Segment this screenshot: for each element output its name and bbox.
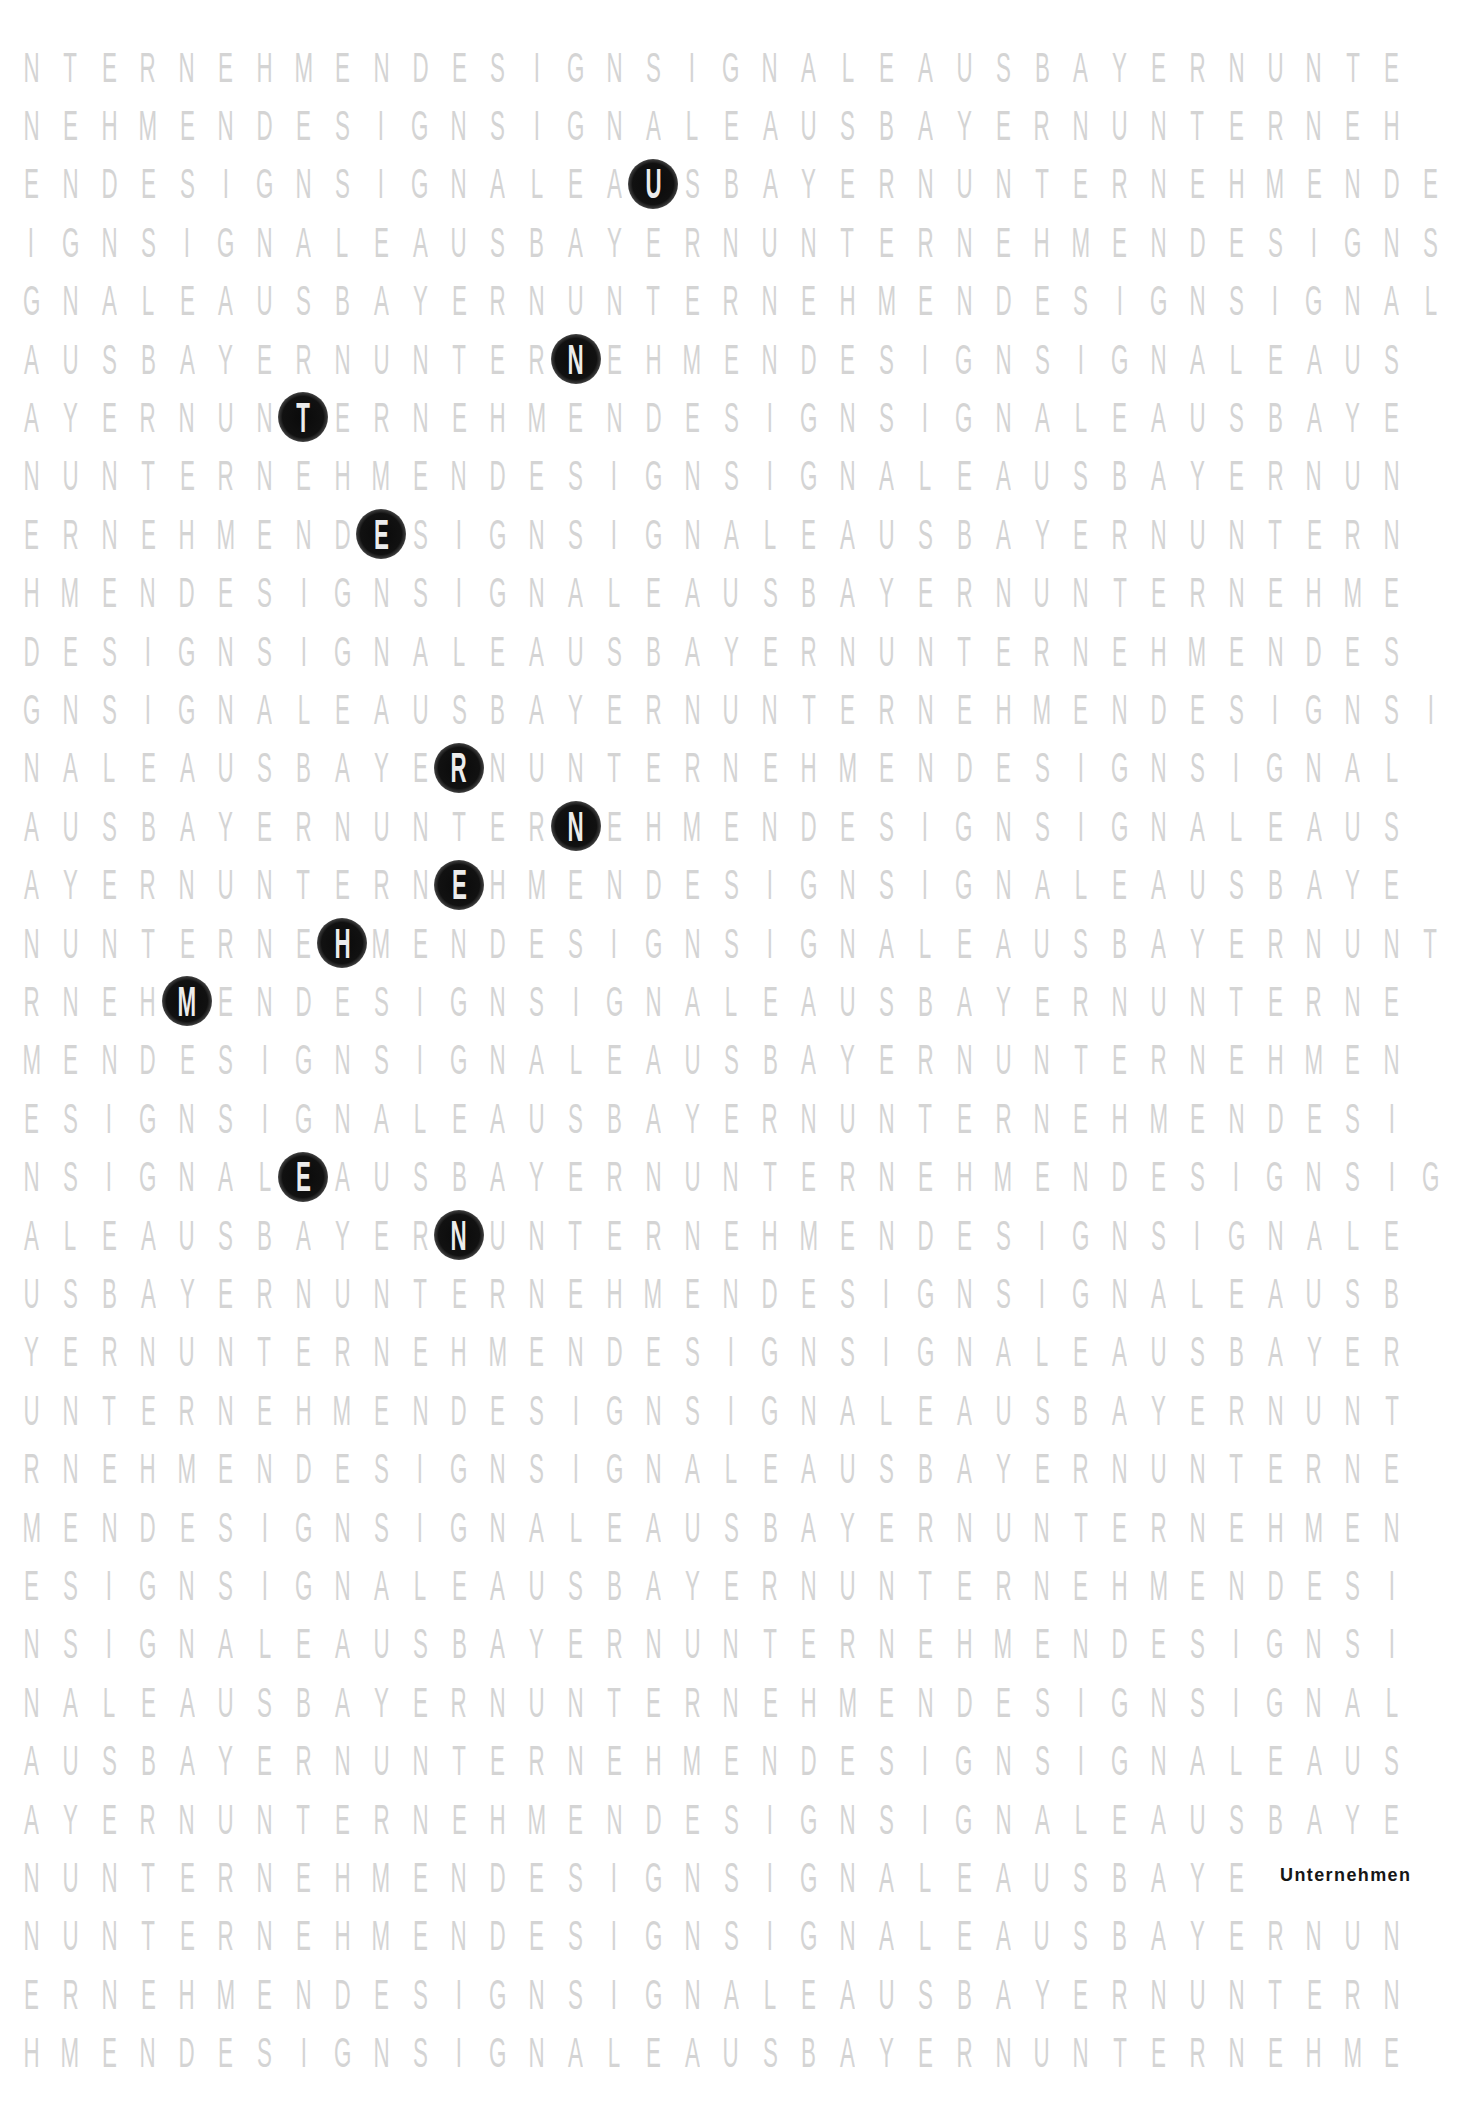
letter: N [1295, 96, 1334, 154]
letter: E [867, 739, 906, 797]
letter-glyph: E [102, 2031, 117, 2074]
letter: S [1372, 622, 1411, 680]
letter-glyph: Y [1112, 46, 1127, 89]
letter: G [789, 388, 828, 446]
letter: L [1217, 330, 1256, 388]
letter: S [712, 1790, 751, 1848]
letter-glyph: T [1191, 104, 1205, 147]
letter-glyph: S [529, 1447, 544, 1490]
letter: G [1100, 1673, 1139, 1731]
letter: G [129, 1089, 168, 1147]
letter-glyph: E [1229, 104, 1244, 147]
letter: T [284, 856, 323, 914]
letter: R [1256, 96, 1295, 154]
letter-glyph: E [1190, 688, 1205, 731]
letter: L [323, 213, 362, 271]
letter: N [323, 797, 362, 855]
letter: N [517, 1206, 556, 1264]
letter-glyph: E [724, 1097, 739, 1140]
letter: G [906, 1264, 945, 1322]
letter-glyph: N [257, 221, 273, 264]
letter: D [1139, 680, 1178, 738]
letter-glyph: S [529, 1389, 544, 1432]
letter: U [828, 1440, 867, 1498]
letter-glyph: Y [685, 1564, 700, 1607]
letter: U [673, 1148, 712, 1206]
letter: A [362, 680, 401, 738]
letter-glyph: G [334, 2031, 351, 2074]
letter: E [401, 1848, 440, 1906]
letter-glyph: U [529, 746, 545, 789]
letter: E [712, 797, 751, 855]
letter: H [167, 1965, 206, 2023]
letter: T [1217, 972, 1256, 1030]
letter-glyph: I [572, 980, 578, 1023]
letter-glyph: E [957, 1097, 972, 1140]
letter: D [945, 1673, 984, 1731]
letter: I [750, 1907, 789, 1965]
letter-glyph: I [1389, 1097, 1395, 1140]
letter: D [789, 1732, 828, 1790]
letter: M [362, 1907, 401, 1965]
letter-glyph: E [24, 1973, 39, 2016]
letter-glyph: E [1384, 980, 1399, 1023]
letter: E [556, 1148, 595, 1206]
letter: A [828, 505, 867, 563]
letter: N [167, 1089, 206, 1147]
letter-glyph: R [840, 1155, 856, 1198]
letter: S [712, 1907, 751, 1965]
letter: A [634, 1089, 673, 1147]
letter: E [1061, 505, 1100, 563]
letter: G [245, 155, 284, 213]
letter: D [12, 622, 51, 680]
letter: Y [206, 1732, 245, 1790]
letter: T [1061, 1031, 1100, 1089]
letter: N [401, 1790, 440, 1848]
letter: T [129, 914, 168, 972]
letter-glyph: U [1189, 396, 1205, 439]
letter: E [245, 1965, 284, 2023]
letter: I [12, 213, 51, 271]
letter: M [51, 564, 90, 622]
letter-glyph: M [139, 104, 158, 147]
letter: G [789, 1848, 828, 1906]
letter-glyph: A [801, 1038, 816, 1081]
letter-glyph: N [840, 454, 856, 497]
letter: H [167, 505, 206, 563]
letter: U [362, 797, 401, 855]
letter: A [984, 1965, 1023, 2023]
letter-glyph: I [1272, 688, 1278, 731]
letter-glyph: E [218, 571, 233, 614]
letter: N [750, 330, 789, 388]
letter: D [440, 1381, 479, 1439]
letter: U [1178, 505, 1217, 563]
letter-glyph: A [24, 396, 39, 439]
letter: E [206, 1440, 245, 1498]
letter: E [129, 1381, 168, 1439]
letter-glyph: S [413, 1155, 428, 1198]
letter: R [1100, 1965, 1139, 2023]
letter: I [906, 856, 945, 914]
letter: E [478, 330, 517, 388]
letter: R [712, 272, 751, 330]
letter: U [1178, 856, 1217, 914]
letter: U [867, 622, 906, 680]
letter: A [1295, 1206, 1334, 1264]
letter: D [789, 330, 828, 388]
letter: N [245, 972, 284, 1030]
letter: A [634, 96, 673, 154]
letter-glyph: T [102, 1389, 116, 1432]
letter-glyph: A [879, 454, 894, 497]
letter-glyph: I [767, 922, 773, 965]
letter: Y [867, 564, 906, 622]
letter-glyph: A [179, 805, 194, 848]
letter-glyph: R [140, 46, 156, 89]
letter: A [945, 972, 984, 1030]
letter-glyph: N [257, 1914, 273, 1957]
letter-glyph: U [218, 863, 234, 906]
letter-glyph: U [723, 2031, 739, 2074]
letter-glyph: N [684, 1214, 700, 1257]
letter: R [362, 856, 401, 914]
letter-glyph: A [1151, 454, 1166, 497]
letter: R [90, 1323, 129, 1381]
